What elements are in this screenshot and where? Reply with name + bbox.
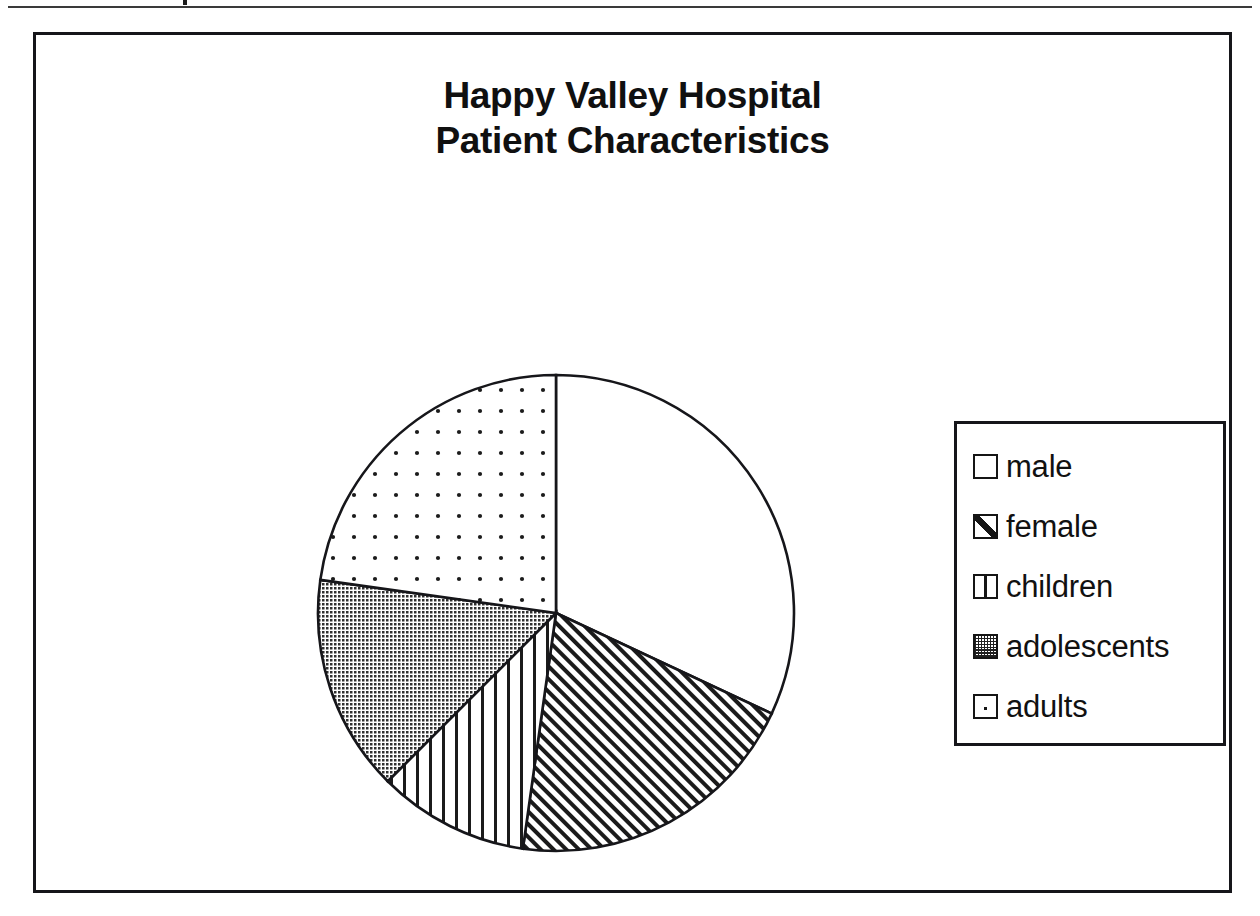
legend-swatch-male-icon: [973, 454, 998, 479]
legend-item-adults[interactable]: adults: [973, 676, 1223, 736]
legend-item-children[interactable]: children: [973, 556, 1223, 616]
scan-artifact-speck: [183, 0, 187, 5]
legend-label-adolescents: adolescents: [1006, 631, 1169, 662]
legend-label-female: female: [1006, 511, 1098, 542]
title-line-1: Happy Valley Hospital: [36, 73, 1229, 118]
page-top-rule: [8, 6, 1252, 8]
legend-label-male: male: [1006, 451, 1072, 482]
title-line-2: Patient Characteristics: [36, 118, 1229, 163]
pie-chart: [286, 343, 826, 883]
page-title: Happy Valley Hospital Patient Characteri…: [36, 73, 1229, 163]
legend-item-adolescents[interactable]: adolescents: [973, 616, 1223, 676]
pie-slice-group: [318, 375, 794, 851]
legend-item-male[interactable]: male: [973, 436, 1223, 496]
legend-item-female[interactable]: female: [973, 496, 1223, 556]
legend-swatch-adolescents-icon: [973, 634, 998, 659]
pie-slice-adults[interactable]: [320, 375, 556, 613]
legend-swatch-children-icon: [973, 574, 998, 599]
legend-label-adults: adults: [1006, 691, 1088, 722]
legend-label-children: children: [1006, 571, 1113, 602]
legend-swatch-adults-icon: [973, 694, 998, 719]
chart-frame: Happy Valley Hospital Patient Characteri…: [33, 32, 1232, 893]
legend-swatch-female-icon: [973, 514, 998, 539]
legend: male female children adolescents adults: [954, 421, 1226, 746]
